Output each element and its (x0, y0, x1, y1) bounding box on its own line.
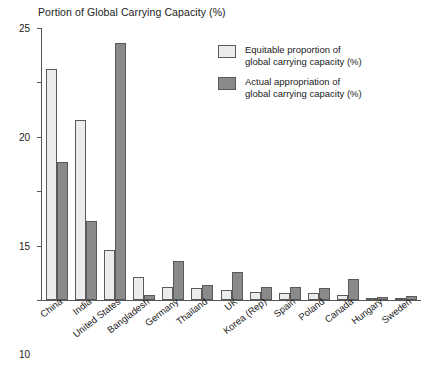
y-axis-tick: 5 (37, 246, 41, 247)
legend-label-actual-line1: Actual appropriation of (245, 76, 362, 88)
y-axis-tick-label: 20 (19, 131, 30, 142)
legend-label-actual-line2: global carrying capacity (%) (245, 88, 362, 100)
bar (86, 221, 97, 300)
x-axis-labels: ChinaIndiaUnited StatesBangladeshGermany… (41, 300, 421, 370)
y-axis-tick: 15 (37, 137, 41, 138)
x-axis-label: China (38, 296, 64, 320)
y-axis-tick-label: 25 (19, 23, 30, 34)
legend-swatch-icon-equitable (218, 45, 236, 58)
legend-label-equitable: Equitable proportion of global carrying … (245, 44, 362, 67)
legend-label-actual: Actual appropriation of global carrying … (245, 76, 362, 99)
x-axis-label: Spain (271, 296, 297, 320)
bar-group (71, 28, 100, 300)
legend-label-equitable-line1: Equitable proportion of (245, 44, 362, 56)
bar (115, 43, 126, 300)
legend-item-equitable: Equitable proportion of global carrying … (218, 44, 433, 67)
y-axis-tick-label: 15 (19, 240, 30, 251)
x-axis-label: Thailand (174, 296, 209, 327)
bar-group (188, 28, 217, 300)
bar-group (159, 28, 188, 300)
bar-chart: Portion of Global Carrying Capacity (%) … (0, 0, 448, 371)
bar-group (100, 28, 129, 300)
x-axis-label: Hungary (350, 296, 385, 327)
x-axis-label: Poland (296, 296, 326, 323)
bar (46, 69, 57, 300)
bar (57, 162, 68, 300)
bar-group (129, 28, 158, 300)
bar (104, 250, 115, 300)
chart-title: Portion of Global Carrying Capacity (%) (38, 6, 226, 18)
bar-group (42, 28, 71, 300)
legend-swatch-icon-actual (218, 77, 236, 90)
chart-legend: Equitable proportion of global carrying … (218, 44, 433, 108)
legend-label-equitable-line2: global carrying capacity (%) (245, 56, 362, 68)
y-axis-tick: 25 (37, 28, 41, 29)
y-axis-tick: 10 (37, 191, 41, 192)
y-axis-tick-label: 10 (19, 349, 30, 360)
legend-item-actual: Actual appropriation of global carrying … (218, 76, 433, 99)
x-axis-label: Sweden (380, 296, 414, 326)
y-axis-tick: 20 (37, 82, 41, 83)
bar (75, 120, 86, 300)
bar (173, 261, 184, 300)
